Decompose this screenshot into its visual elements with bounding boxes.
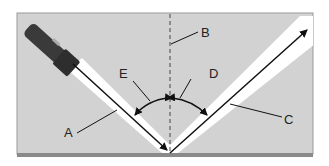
label-a: A (64, 125, 73, 140)
mirror-surface (17, 153, 313, 157)
diagram-panel (17, 13, 313, 154)
label-c: C (284, 112, 293, 127)
label-e: E (119, 66, 128, 81)
label-d: D (209, 66, 218, 81)
reflection-diagram: A B C D E (0, 0, 329, 166)
label-b: B (201, 25, 210, 40)
